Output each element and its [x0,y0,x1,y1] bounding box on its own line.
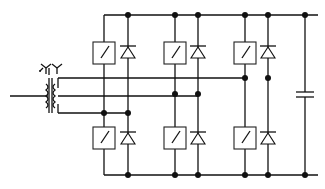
switch-lower-2 [164,127,186,149]
switch-upper-2 [164,42,186,64]
junction-dots [101,12,308,178]
inverter-circuit-diagram [0,0,325,189]
switch-lower-1 [93,127,115,149]
diode-lower-3 [260,132,276,144]
wye-symbol [39,64,62,74]
diode-upper-2 [190,46,206,58]
dc-link-capacitor [296,15,314,175]
phase-wires [58,78,245,113]
switch-upper-1 [93,42,115,64]
diode-lower-1 [120,132,136,144]
diode-upper-1 [120,46,136,58]
switch-lower-3 [234,127,256,149]
diode-lower-2 [190,132,206,144]
diode-upper-3 [260,46,276,58]
switch-upper-3 [234,42,256,64]
